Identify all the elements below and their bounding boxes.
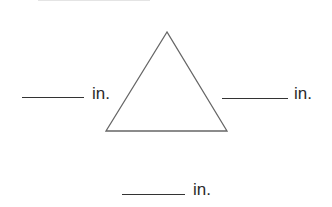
left-unit-label: in.: [92, 85, 110, 102]
left-answer-blank[interactable]: [22, 97, 84, 98]
bottom-unit-label: in.: [193, 181, 211, 198]
triangle-shape: [106, 32, 227, 131]
triangle-figure: [0, 0, 332, 207]
right-answer-blank[interactable]: [222, 98, 288, 99]
bottom-answer-blank[interactable]: [122, 194, 185, 195]
right-unit-label: in.: [294, 85, 312, 102]
